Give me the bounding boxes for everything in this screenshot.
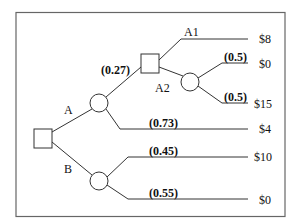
chance-node-a [90, 94, 108, 112]
label-a: A [64, 103, 73, 117]
payoff-a2-up: $0 [259, 57, 271, 71]
prob-a2-down: (0.5) [224, 90, 247, 104]
chance-node-a2 [181, 73, 199, 91]
payoff-a2-down: $15 [254, 97, 272, 111]
branch-a2-up [198, 63, 248, 78]
branch-a2-a2 [159, 67, 183, 76]
chance-node-b [90, 172, 108, 190]
label-b: B [64, 162, 72, 176]
prob-a2-up: (0.5) [224, 50, 247, 64]
branch-b-up [107, 157, 248, 177]
payoff-a-down: $4 [259, 122, 271, 136]
prob-b-down: (0.55) [149, 186, 178, 200]
payoff-b-up: $10 [254, 150, 272, 164]
decision-tree-diagram: A B A1 A2 (0.27) (0.73) (0.5) (0.5) (0.4… [0, 0, 298, 224]
decision-node-root [34, 129, 52, 148]
prob-a-down: (0.73) [149, 116, 178, 130]
decision-node-a2 [141, 54, 159, 73]
label-a1: A1 [184, 25, 199, 39]
prob-a-up: (0.27) [101, 63, 130, 77]
payoff-a1: $8 [259, 32, 271, 46]
payoff-b-down: $0 [259, 193, 271, 207]
label-a2: A2 [155, 81, 170, 95]
prob-b-up: (0.45) [149, 144, 178, 158]
